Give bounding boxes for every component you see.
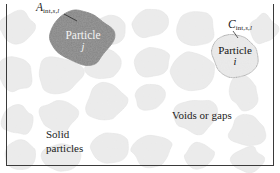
particle-bg-23 [250,13,279,43]
solid-particles-line-1: Solid [46,128,83,142]
particle-i-name: Particle [218,44,252,56]
particle-i-label: Particle i [211,45,259,67]
interfacial-area-subscript: int,s,l [43,7,59,15]
particle-bg-15 [131,135,172,167]
voids-label: Voids or gaps [172,110,232,122]
interfacial-concentration-label: Cint,s,l [228,18,252,32]
particle-bg-22 [230,146,264,172]
particle-bg-12 [132,9,169,37]
interfacial-area-label: Aint,s,l [36,1,59,15]
frame-left-rule [6,4,7,166]
particle-bg-17 [170,52,214,91]
interfacial-area-symbol: A [36,1,43,13]
particle-bg-21 [228,114,266,145]
interfacial-concentration-subscript: int,s,l [236,24,252,32]
solid-particles-label: Solid particles [46,128,83,156]
particle-bg-16 [177,12,214,46]
particle-bg-2 [0,57,32,92]
particle-bg-20 [229,74,258,111]
interfacial-concentration-symbol: C [228,18,236,30]
frame-bottom-rule [6,165,274,166]
frame-right-rule [273,4,274,166]
particle-j-label: Particle j [55,29,111,52]
particle-bg-13 [134,47,169,77]
solid-particles-line-2: particles [46,142,83,156]
particle-bg-14 [135,84,165,110]
particle-j-index: j [55,41,111,52]
particle-layer [0,9,279,172]
particle-bed-figure: Aint,s,l Cint,s,l Particle j Particle i … [0,0,280,173]
particle-i-index: i [211,56,259,67]
particle-bg-10 [86,82,128,120]
particle-bg-11 [90,133,128,163]
particle-j-name: Particle [65,29,100,41]
